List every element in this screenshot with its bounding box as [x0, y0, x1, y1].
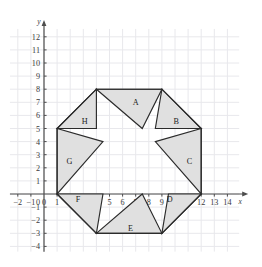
y-tick-label: 6 — [36, 111, 40, 120]
y-tick-label: 9 — [36, 72, 40, 81]
coordinate-plane-figure: −2−101234567891011121314−4−3−2−112345678… — [0, 0, 262, 267]
region-label-h: H — [82, 117, 88, 126]
y-tick-label: 7 — [36, 98, 40, 107]
region-label-d: D — [167, 195, 173, 204]
y-axis-arrow — [42, 20, 47, 26]
y-tick-label: 10 — [32, 59, 40, 68]
y-tick-label: 8 — [36, 85, 40, 94]
y-tick-label: −2 — [31, 216, 40, 225]
region-label-b: B — [174, 117, 180, 126]
x-axis-label: x — [238, 197, 243, 206]
x-tick-label: 0 — [42, 198, 46, 207]
origin-label: 0 — [36, 198, 40, 207]
y-tick-label: 5 — [36, 125, 40, 134]
y-tick-label: 11 — [32, 46, 40, 55]
x-tick-label: 5 — [107, 198, 111, 207]
region-label-e: E — [128, 224, 133, 233]
y-tick-label: 1 — [36, 177, 40, 186]
shaded-regions — [57, 89, 201, 233]
x-tick-label: 14 — [223, 198, 231, 207]
y-tick-label: 2 — [36, 164, 40, 173]
y-axis-label: y — [36, 17, 41, 26]
region-label-c: C — [187, 157, 193, 166]
x-tick-label: 6 — [121, 198, 125, 207]
y-tick-label: −4 — [31, 242, 40, 251]
region-label-a: A — [133, 98, 139, 107]
y-tick-label: 4 — [36, 138, 40, 147]
region-label-g: G — [67, 157, 73, 166]
y-tick-label: 3 — [36, 151, 40, 160]
x-tick-label: 1 — [55, 198, 59, 207]
x-tick-label: 12 — [197, 198, 205, 207]
y-tick-label: −3 — [31, 229, 40, 238]
region-label-f: F — [76, 195, 81, 204]
x-tick-label: 9 — [160, 198, 164, 207]
x-tick-label: 13 — [210, 198, 218, 207]
x-axis-arrow — [242, 192, 248, 197]
octagon-star-plot: −2−101234567891011121314−4−3−2−112345678… — [0, 0, 262, 267]
y-tick-label: 12 — [32, 33, 40, 42]
region-a — [96, 89, 161, 128]
x-tick-label: −2 — [13, 198, 22, 207]
